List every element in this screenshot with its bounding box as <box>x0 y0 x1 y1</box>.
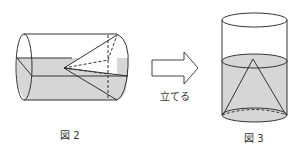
diagram-canvas <box>0 0 297 150</box>
figure-3 <box>222 13 287 122</box>
arrow-label: 立てる <box>160 88 190 103</box>
top-ellipse <box>222 13 287 27</box>
arrow-icon <box>152 52 198 84</box>
figure-2 <box>16 34 128 100</box>
figure-2-caption: 図 2 <box>60 127 80 142</box>
figure-3-caption: 図 3 <box>244 130 264 145</box>
